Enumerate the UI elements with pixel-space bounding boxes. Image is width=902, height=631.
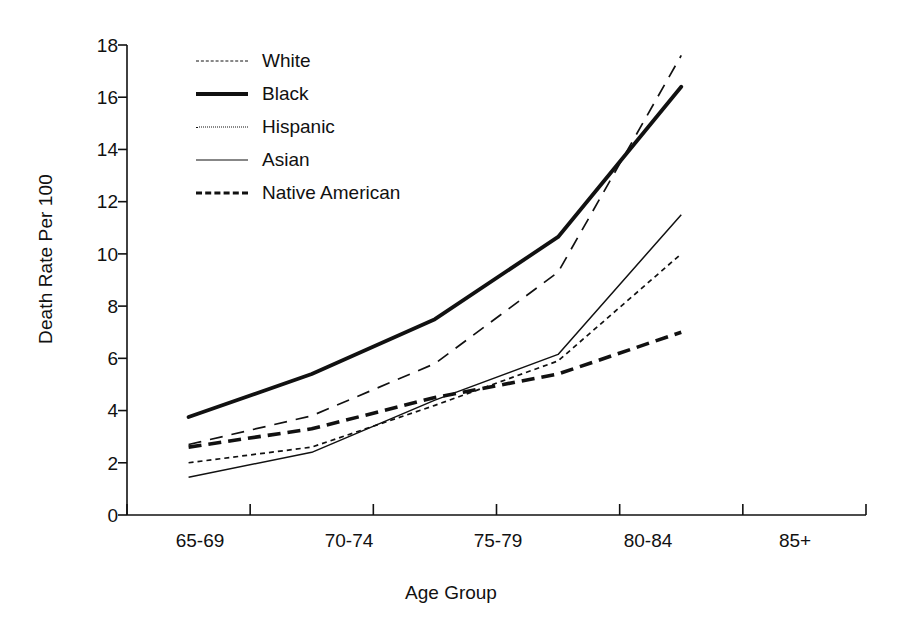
series-line-asian (189, 215, 682, 477)
plot-area (0, 0, 902, 631)
chart-figure: Death Rate Per 100 18 16 14 12 10 8 6 4 … (0, 0, 902, 631)
series-line-white (189, 55, 682, 444)
series-line-black (189, 87, 682, 417)
series-lines (189, 55, 682, 477)
